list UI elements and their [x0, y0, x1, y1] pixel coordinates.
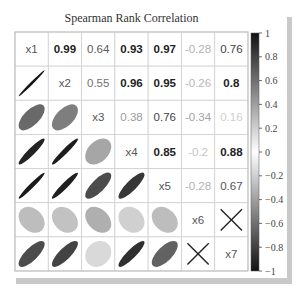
- colorbar: 10.80.60.40.20−0.2−0.4−0.6−0.8−1: [251, 28, 283, 277]
- colorbar-tick-label: 0.6: [265, 75, 278, 86]
- correlation-value: -0.26: [185, 77, 211, 89]
- correlation-value: 0.93: [120, 43, 142, 55]
- colorbar-tick-label: 0.4: [265, 99, 278, 110]
- colorbar-tick-label: −0.2: [265, 170, 283, 181]
- diagonal-label: x1: [26, 43, 38, 55]
- correlation-value: 0.55: [87, 77, 109, 89]
- correlation-value: 0.76: [154, 111, 176, 123]
- correlation-value: -0.28: [185, 180, 211, 192]
- colorbar-tick-label: −0.8: [265, 242, 283, 253]
- correlation-value: 0.8: [223, 77, 240, 89]
- correlation-value: 0.64: [87, 43, 110, 55]
- correlation-value: -0.34: [185, 111, 212, 123]
- correlation-value: 0.38: [120, 111, 142, 123]
- correlation-value: 0.96: [120, 77, 142, 89]
- colorbar-tick-label: −1: [265, 266, 276, 277]
- correlation-value: 0.97: [154, 43, 176, 55]
- correlation-value: 0.95: [154, 77, 177, 89]
- diagonal-label: x6: [192, 214, 204, 226]
- correlation-value: 0.88: [220, 146, 243, 158]
- colorbar-tick-label: 1: [265, 28, 270, 39]
- diagonal-label: x4: [125, 146, 138, 158]
- correlation-plot: x10.990.640.930.97-0.280.76x20.550.960.9…: [0, 0, 308, 295]
- correlation-value: 0.16: [220, 111, 242, 123]
- correlation-value: 0.76: [220, 43, 242, 55]
- correlation-value: -0.2: [188, 146, 208, 158]
- correlation-value: 0.67: [220, 180, 242, 192]
- colorbar-tick-label: 0.8: [265, 51, 278, 62]
- correlation-value: -0.28: [185, 43, 211, 55]
- correlation-value: 0.99: [54, 43, 76, 55]
- matrix-grid: x10.990.640.930.97-0.280.76x20.550.960.9…: [13, 32, 248, 272]
- colorbar-tick-label: −0.6: [265, 218, 283, 229]
- diagonal-label: x2: [59, 77, 71, 89]
- diagonal-label: x7: [225, 248, 237, 260]
- diagonal-label: x5: [159, 180, 171, 192]
- diagonal-label: x3: [92, 111, 104, 123]
- colorbar-tick-label: 0.2: [265, 123, 278, 134]
- colorbar-tick-label: 0: [265, 147, 270, 158]
- correlation-value: 0.85: [154, 146, 177, 158]
- colorbar-ticks: 10.80.60.40.20−0.2−0.4−0.6−0.8−1: [259, 28, 283, 277]
- colorbar-tick-label: −0.4: [265, 194, 283, 205]
